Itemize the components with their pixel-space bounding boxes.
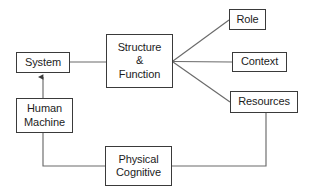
node-physical-cognitive-label-line2: Cognitive [116,166,161,179]
node-role-label: Role [236,13,258,26]
node-structure-function[interactable]: Structure & Function [106,34,173,88]
node-human-machine-label-line1: Human [27,102,62,115]
node-structure-function-label-line2: & [136,54,143,67]
node-resources-label: Resources [238,95,290,108]
connector-structure-to-resources [173,62,230,102]
node-system-label: System [25,56,61,69]
node-human-machine-label-line2: Machine [24,116,65,129]
node-context[interactable]: Context [232,52,287,72]
node-physical-cognitive[interactable]: Physical Cognitive [105,146,172,186]
node-human-machine[interactable]: Human Machine [16,98,73,133]
node-system[interactable]: System [16,52,70,73]
node-context-label: Context [241,55,278,68]
connector-structure-to-role [173,20,229,61]
node-physical-cognitive-label-line1: Physical [118,153,158,166]
node-structure-function-label-line1: Structure [118,41,162,54]
diagram-canvas: System Human Machine Structure & Functio… [0,0,311,195]
connector-human-machine-to-physical-cognitive [43,133,105,166]
connector-resources-to-physical-cognitive [172,113,266,166]
connector-structure-to-context [173,62,232,63]
node-role[interactable]: Role [229,9,266,30]
node-structure-function-label-line3: Function [119,68,160,81]
node-resources[interactable]: Resources [230,91,298,113]
